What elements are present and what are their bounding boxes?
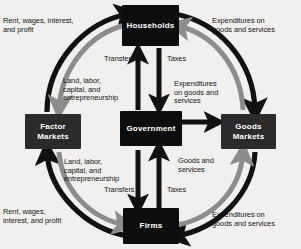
node-households[interactable]: Households [122, 5, 179, 46]
label-transfers-top: Transfers [104, 55, 144, 64]
label-rent-wages-top: Rent, wages, interest, and profit [3, 17, 108, 34]
label-taxes-bottom: Taxes [167, 186, 199, 195]
node-households-label: Households [127, 21, 175, 30]
label-taxes-top: Taxes [167, 55, 199, 64]
node-government-label: Government [126, 124, 175, 133]
node-government[interactable]: Government [120, 111, 182, 146]
node-goods-markets-label: Goods Markets [222, 122, 275, 141]
label-goods-services-bottom: Goods and services [178, 157, 236, 174]
label-expenditures-inner-top: Expenditures on goods and services [174, 80, 236, 106]
label-rent-wages-bottom: Rent, wages, interest, and profit [3, 208, 103, 225]
label-transfers-bottom: Transfers [104, 186, 144, 195]
label-land-labor-bottom: Land, labor, capital, and entrepreneursh… [64, 158, 146, 184]
node-factor-markets-label: Factor Markets [26, 122, 80, 141]
label-land-labor-top: Land, labor, capital, and entrepreneursh… [63, 77, 145, 103]
node-goods-markets[interactable]: Goods Markets [221, 114, 276, 149]
circular-flow-diagram: Households Factor Markets Government Goo… [0, 0, 301, 249]
label-expenditures-top: Expenditures on goods and services [212, 17, 300, 34]
label-expenditures-bottom: Expenditures on goods and services [212, 211, 300, 228]
node-firms[interactable]: Firms [123, 208, 179, 244]
node-factor-markets[interactable]: Factor Markets [25, 114, 81, 149]
node-firms-label: Firms [140, 221, 163, 230]
